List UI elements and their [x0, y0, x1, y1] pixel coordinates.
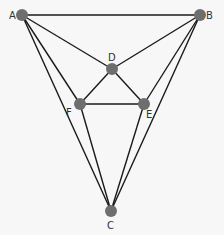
edge-a-d: [22, 15, 112, 69]
node-d: [106, 63, 118, 75]
edge-b-d: [112, 15, 200, 69]
node-label-b: B: [206, 10, 213, 21]
graph-diagram: ABDFEC: [0, 0, 224, 235]
node-label-d: D: [108, 52, 116, 63]
node-a: [16, 9, 28, 21]
node-b: [194, 9, 206, 21]
edge-f-c: [80, 104, 111, 211]
edge-e-c: [111, 104, 144, 211]
node-label-a: A: [9, 10, 16, 21]
node-label-e: E: [146, 109, 152, 120]
node-label-c: C: [107, 220, 114, 231]
edge-d-e: [112, 69, 144, 104]
edge-b-c: [111, 15, 200, 211]
edge-b-e: [144, 15, 200, 104]
graph-svg: ABDFEC: [0, 0, 224, 235]
edge-d-f: [80, 69, 112, 104]
nodes-group: [16, 9, 206, 217]
node-label-f: F: [66, 107, 72, 118]
node-c: [105, 205, 117, 217]
edge-a-f: [22, 15, 80, 104]
edges-group: [22, 15, 200, 211]
node-f: [74, 98, 86, 110]
